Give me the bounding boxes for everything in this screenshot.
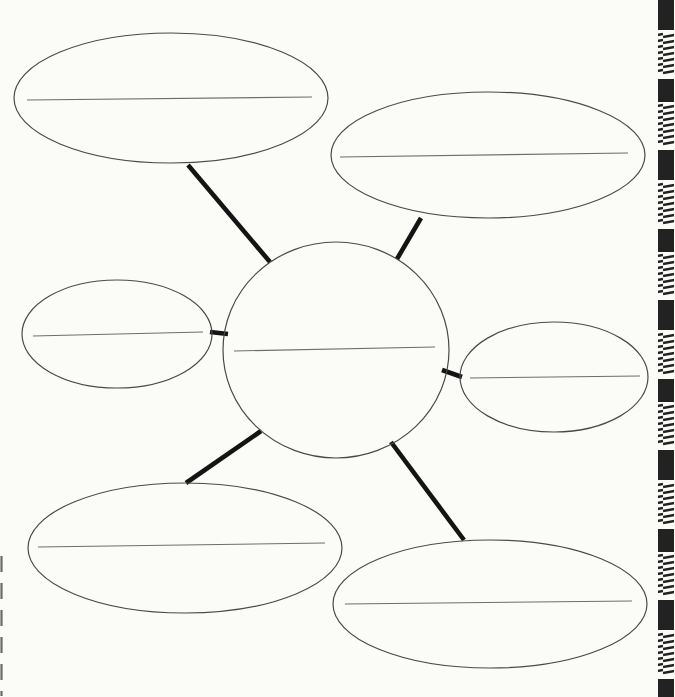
connector-center-top-right xyxy=(397,218,421,259)
connectors xyxy=(186,165,464,540)
connector-center-bottom-left xyxy=(186,431,261,483)
middle-right-write-line xyxy=(470,376,640,378)
bottom-right-write-line xyxy=(345,601,632,604)
connector-center-top-left xyxy=(188,165,270,262)
node-middle-left xyxy=(22,280,212,388)
node-top-left xyxy=(14,33,328,163)
concept-web-diagram xyxy=(0,0,675,697)
node-bottom-right xyxy=(333,540,647,668)
top-left-write-line xyxy=(27,97,312,100)
worksheet-page xyxy=(0,0,675,697)
center-write-line xyxy=(234,347,435,351)
bottom-left-oval xyxy=(28,483,342,613)
connector-center-bottom-right xyxy=(391,442,464,540)
node-middle-right xyxy=(460,322,648,432)
page-edge-pattern-strip xyxy=(658,0,674,697)
connector-center-middle-right xyxy=(442,370,462,377)
connector-center-middle-left xyxy=(210,332,228,334)
top-right-write-line xyxy=(340,153,628,157)
bottom-left-write-line xyxy=(38,543,325,547)
middle-left-write-line xyxy=(33,332,203,336)
node-top-right xyxy=(331,92,645,218)
node-center xyxy=(223,242,449,458)
node-bottom-left xyxy=(28,483,342,613)
